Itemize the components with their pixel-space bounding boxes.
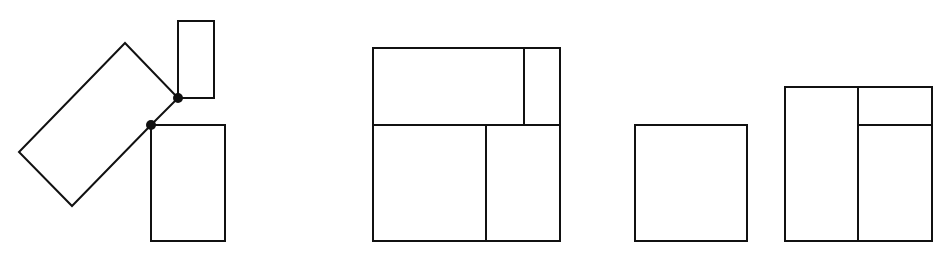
figure-3 [635,125,747,241]
upper-small-rectangle [178,21,214,98]
outer-rectangle [635,125,747,241]
figure-2 [373,48,560,241]
diagram-canvas [0,0,947,259]
figure-4 [785,87,932,241]
outer-rectangle [373,48,560,241]
figure-1 [19,21,225,241]
upper-hinge-dot [173,93,183,103]
lower-hinge-dot [146,120,156,130]
lower-rectangle [151,125,225,241]
